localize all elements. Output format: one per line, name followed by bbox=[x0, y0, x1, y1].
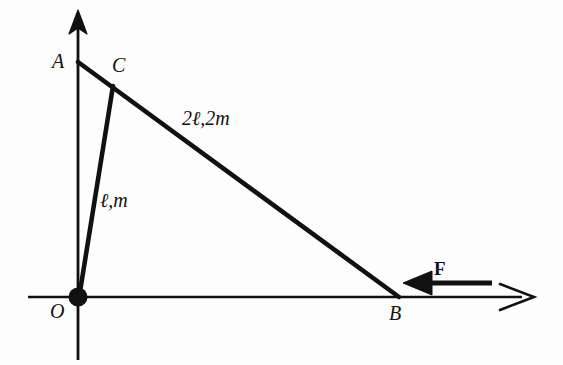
diagram-canvas bbox=[0, 0, 563, 365]
point-label-B: B bbox=[389, 303, 401, 323]
force-arrow-head-icon bbox=[403, 271, 432, 295]
rod-OC-label: ℓ,m bbox=[100, 190, 128, 210]
point-label-A: A bbox=[52, 51, 64, 71]
rod-AB-line bbox=[78, 62, 399, 297]
rod-AB-label: 2ℓ,2m bbox=[182, 108, 230, 128]
physics-diagram-figure: A C O B 2ℓ,2m ℓ,m F bbox=[0, 0, 563, 365]
force-label-F: F bbox=[434, 259, 446, 278]
point-label-C: C bbox=[112, 55, 125, 75]
origin-pivot-dot bbox=[69, 288, 88, 307]
point-label-O: O bbox=[50, 301, 64, 321]
